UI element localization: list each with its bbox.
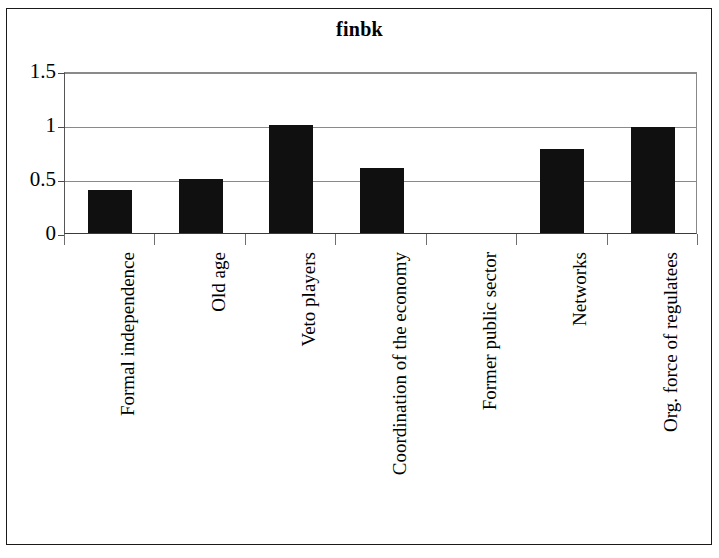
bar xyxy=(179,179,223,233)
bar xyxy=(88,190,132,233)
x-axis-tick xyxy=(697,234,698,245)
y-axis-tick-label: 1 xyxy=(46,115,57,136)
y-axis-tick-label: 0 xyxy=(46,223,57,244)
y-axis-tick-label: 0.5 xyxy=(30,169,56,190)
x-axis-category-label: Coordination of the economy xyxy=(390,252,409,475)
x-axis-category-label: Old age xyxy=(209,252,228,312)
chart-figure: finbk 00.511.5 Formal independenceOld ag… xyxy=(0,0,719,558)
gridline xyxy=(65,127,696,128)
y-axis-tick xyxy=(58,181,65,182)
x-axis-category-label: Former public sector xyxy=(480,252,499,410)
bar xyxy=(360,168,404,233)
x-axis-tick xyxy=(154,234,155,245)
plot-area xyxy=(64,72,697,234)
x-axis-tick xyxy=(64,234,65,245)
bar xyxy=(631,127,675,233)
x-axis-tick xyxy=(426,234,427,245)
y-axis-tick xyxy=(58,73,65,74)
x-axis-tick xyxy=(607,234,608,245)
x-axis-category-label: Formal independence xyxy=(118,252,137,416)
x-axis-tick xyxy=(335,234,336,245)
x-axis-category-label: Networks xyxy=(570,252,589,326)
y-axis-tick xyxy=(58,127,65,128)
chart-title: finbk xyxy=(0,18,719,41)
x-axis-tick xyxy=(516,234,517,245)
x-axis-category-label: Veto players xyxy=(299,252,318,346)
y-axis-tick-label: 1.5 xyxy=(30,61,56,82)
y-axis-tick-labels: 00.511.5 xyxy=(0,72,56,234)
gridline xyxy=(65,73,696,74)
x-axis-category-label: Org. force of regulatees xyxy=(661,252,680,432)
bar xyxy=(540,149,584,233)
x-axis-tick xyxy=(245,234,246,245)
bar xyxy=(269,125,313,233)
